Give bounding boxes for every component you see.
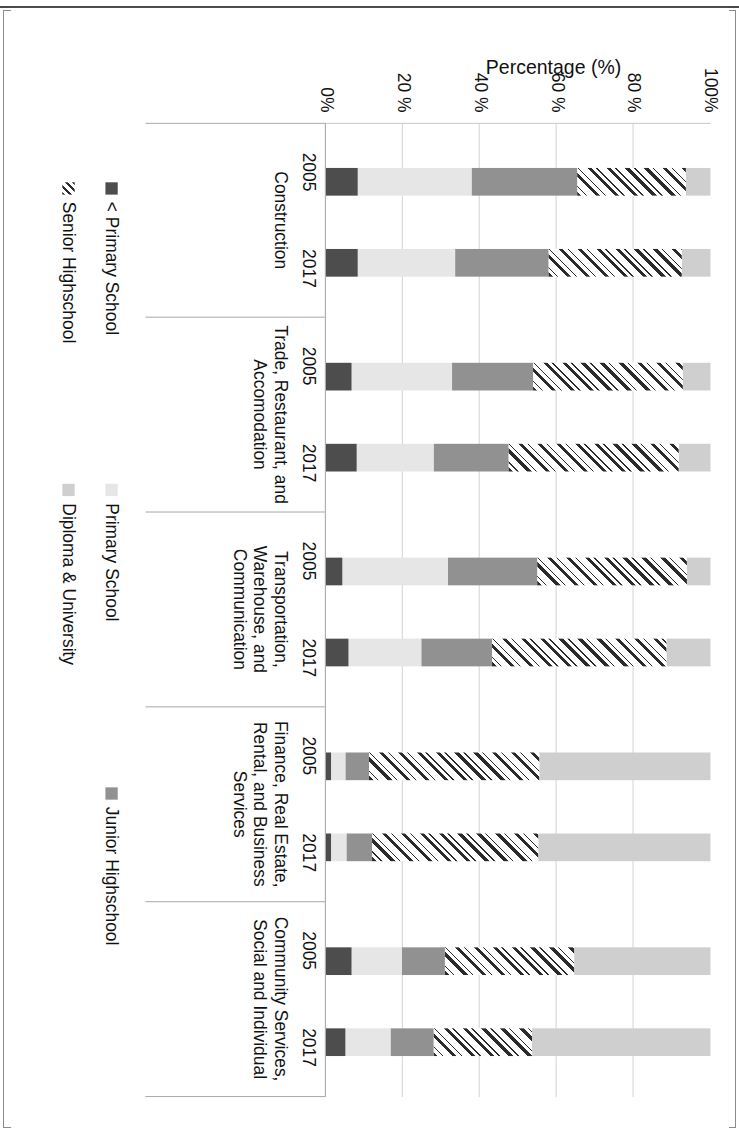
legend-label: < Primary School	[101, 201, 122, 334]
legend-item[interactable]: Junior Highschool	[101, 787, 122, 945]
bar-segment	[325, 1028, 345, 1056]
bar-segment	[508, 444, 678, 472]
legend-item[interactable]: Diploma & University	[58, 483, 79, 664]
bar-segment	[686, 167, 710, 195]
bar-segment	[433, 444, 508, 472]
category-year-label: 2005	[298, 902, 319, 999]
category-year-label: 2005	[298, 317, 319, 414]
bar-segment	[492, 638, 666, 666]
bar-segment	[325, 249, 357, 277]
bar-segment	[574, 946, 710, 974]
bar-segment	[452, 362, 533, 390]
scanned-page: Percentage (%) 100%80 %60 %40 %20 %0% 20…	[0, 0, 739, 1143]
bar-segment	[330, 751, 344, 779]
bar-segment	[325, 557, 342, 585]
category-group: 20052017Transportation, Warehouse, and C…	[145, 512, 324, 707]
legend-label: Junior Highschool	[101, 806, 122, 945]
category-name-label: Community Services, Social and Individua…	[248, 902, 289, 1096]
chart-figure: Percentage (%) 100%80 %60 %40 %20 %0% 20…	[11, 7, 729, 1135]
bar-segment	[351, 362, 452, 390]
bar-segment	[372, 833, 538, 861]
plot-area	[325, 122, 710, 1096]
category-year-label: 2017	[298, 999, 319, 1096]
bar-segment	[390, 1028, 433, 1056]
bar-segment	[342, 557, 447, 585]
bar-2005	[325, 946, 710, 974]
category-group: 20052017Trade, Restaurant, and Accomodat…	[145, 317, 324, 512]
category-name-label: Transportation, Warehouse, and Communica…	[228, 512, 290, 706]
category-name-label: Finance, Real Estate, Rental, and Busine…	[228, 707, 290, 901]
bar-2017	[325, 444, 710, 472]
chart-legend: < Primary SchoolPrimary SchoolJunior Hig…	[29, 122, 127, 1096]
bar-segment	[357, 444, 434, 472]
bar-segment	[325, 946, 350, 974]
bar-2017	[325, 249, 710, 277]
bar-2005	[325, 362, 710, 390]
category-year-label: 2005	[298, 123, 319, 219]
value-tick-label: 40 %	[469, 72, 490, 112]
legend-label: Primary School	[101, 503, 122, 621]
bar-segment	[678, 444, 710, 472]
bar-segment	[369, 751, 539, 779]
bar-segment	[325, 167, 357, 195]
category-name-label: Construction	[269, 123, 290, 316]
bar-2017	[325, 638, 710, 666]
category-year-label: 2005	[298, 512, 319, 609]
bar-2005	[325, 557, 710, 585]
bar-segment	[577, 167, 686, 195]
bar-segment	[533, 362, 683, 390]
bar-segment	[537, 557, 687, 585]
category-year-label: 2017	[298, 804, 319, 901]
bar-segment	[331, 833, 346, 861]
legend-item[interactable]: Primary School	[101, 483, 122, 621]
bar-segment	[325, 362, 350, 390]
category-name-label: Trade, Restaurant, and Accomodation	[248, 317, 289, 511]
bar-segment	[532, 1028, 710, 1056]
bar-segment	[348, 638, 421, 666]
bar-segment	[345, 751, 369, 779]
legend-item[interactable]: Senior Highschool	[58, 182, 79, 343]
bar-segment	[325, 833, 330, 861]
legend-swatch-icon	[62, 483, 74, 495]
bar-segment	[325, 751, 330, 779]
value-tick-label: 80 %	[623, 72, 644, 112]
bar-segment	[548, 249, 681, 277]
value-tick-label: 60 %	[546, 72, 567, 112]
category-year-label: 2005	[298, 707, 319, 804]
bar-segment	[402, 946, 445, 974]
bar-segment	[325, 444, 356, 472]
bar-2017	[325, 1028, 710, 1056]
value-tick-label: 100%	[700, 67, 721, 112]
value-axis-ticks: 100%80 %60 %40 %20 %0%	[325, 44, 710, 118]
bar-segment	[325, 638, 347, 666]
legend-item[interactable]: < Primary School	[101, 182, 122, 335]
category-group: 20052017Community Services, Social and I…	[145, 902, 324, 1097]
bar-segment	[345, 1028, 390, 1056]
bar-segment	[682, 249, 710, 277]
bar-2005	[325, 167, 710, 195]
bar-segment	[683, 362, 710, 390]
category-axis: 20052017Construction20052017Trade, Resta…	[146, 122, 325, 1096]
bar-segment	[351, 946, 402, 974]
bar-segment	[539, 751, 710, 779]
bar-segment	[538, 833, 710, 861]
bar-segment	[444, 946, 574, 974]
legend-label: Senior Highschool	[58, 201, 79, 342]
bar-2017	[325, 833, 710, 861]
category-group: 20052017Finance, Real Estate, Rental, an…	[145, 707, 324, 902]
category-group: 20052017Construction	[145, 122, 324, 317]
legend-label: Diploma & University	[58, 503, 79, 665]
category-year-label: 2017	[298, 609, 319, 706]
bar-segment	[346, 833, 372, 861]
bar-segment	[455, 249, 548, 277]
bar-segment	[421, 638, 492, 666]
rotated-figure-wrapper: Percentage (%) 100%80 %60 %40 %20 %0% 20…	[0, 0, 739, 1143]
bar-segment	[358, 167, 471, 195]
value-axis-line	[325, 122, 710, 123]
value-tick-label: 0%	[315, 87, 336, 112]
category-year-label: 2017	[298, 414, 319, 511]
category-year-label: 2017	[298, 220, 319, 316]
bar-2005	[325, 751, 710, 779]
bar-segment	[448, 557, 537, 585]
bar-segment	[433, 1028, 532, 1056]
